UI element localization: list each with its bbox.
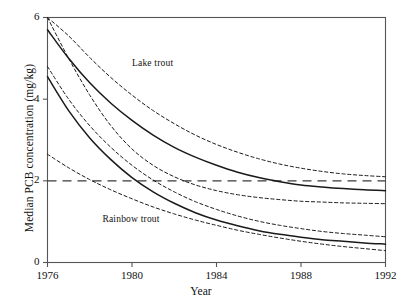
series-line [48,30,386,191]
x-tick-label: 1992 [363,269,402,281]
y-tick-label: 2 [18,173,40,185]
x-tick-label: 1984 [194,269,240,281]
series-annotation: Lake trout [132,58,173,68]
y-tick-label: 0 [18,255,40,267]
chart-canvas [0,0,402,308]
y-tick-label: 4 [18,92,40,104]
series-annotation: Rainbow trout [102,214,159,224]
series-line [48,18,386,177]
y-tick-label: 6 [18,10,40,22]
series-line [48,18,386,204]
plot-frame [48,18,386,263]
y-axis-title: Median PCB concentration (mg/kg) [23,33,35,263]
x-tick-label: 1980 [109,269,155,281]
x-axis-title: Year [0,285,402,297]
data-series-group [48,18,386,251]
series-line [48,77,386,244]
x-tick-label: 1988 [278,269,324,281]
pcb-concentration-figure: Median PCB concentration (mg/kg) Year 02… [0,0,402,308]
x-tick-label: 1976 [25,269,71,281]
